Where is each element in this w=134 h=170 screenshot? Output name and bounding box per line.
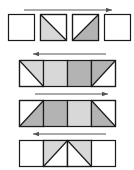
cell: [73, 15, 99, 41]
cell: [105, 15, 131, 41]
cell: [44, 141, 68, 167]
cell: [92, 101, 116, 127]
arrow-head-right-icon: [102, 92, 108, 97]
cell: [20, 101, 44, 127]
cell: [68, 141, 92, 167]
cell: [20, 61, 44, 87]
cell-background: [44, 61, 68, 87]
cell: [68, 101, 92, 127]
cell: [20, 141, 44, 167]
cell: [44, 61, 68, 87]
cell-background: [68, 101, 92, 127]
cell-background: [105, 15, 131, 41]
cell: [44, 101, 68, 127]
arrow-head-right-icon: [106, 8, 112, 13]
diagram-canvas: [0, 0, 134, 170]
cell: [9, 15, 35, 41]
cell-background: [44, 101, 68, 127]
arrow-head-left-icon: [33, 132, 39, 137]
cell: [41, 15, 67, 41]
cell: [68, 61, 92, 87]
cell-background: [20, 141, 44, 167]
cell-background: [68, 61, 92, 87]
cell-background: [92, 141, 116, 167]
cell: [92, 141, 116, 167]
cell-background: [9, 15, 35, 41]
arrow-head-left-icon: [33, 52, 39, 57]
cell: [92, 61, 116, 87]
